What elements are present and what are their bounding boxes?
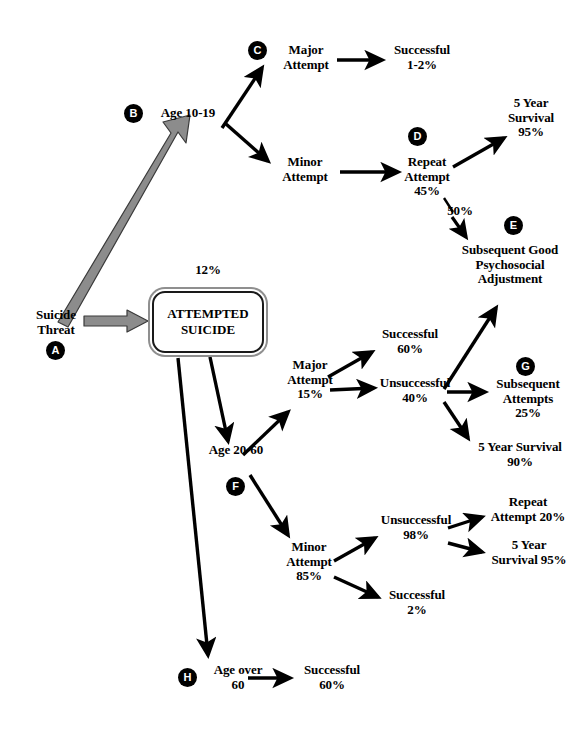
- node-g-survival-label: 5 Year Survival 90%: [465, 440, 575, 469]
- node-f-major-successful-label: Successful 60%: [368, 327, 452, 356]
- node-h-successful-label: Successful 60%: [290, 663, 374, 692]
- node-f-label: Age 20-60: [196, 443, 276, 458]
- node-d-survival-label: 5 Year Survival 95%: [492, 96, 570, 140]
- edge-unsucc40-to-survival90: [444, 402, 468, 438]
- node-badge-g: G: [516, 357, 535, 376]
- node-c-successful-label: Successful 1-2%: [380, 43, 464, 72]
- node-g-label: Subsequent Attempts 25%: [487, 377, 569, 421]
- node-f-major-unsuccessful-label: Unsuccessful 40%: [370, 376, 460, 405]
- attempted-suicide-label: ATTEMPTED SUICIDE: [167, 306, 248, 337]
- node-badge-h: H: [178, 668, 197, 687]
- edge-b-to-major: [222, 68, 262, 128]
- node-b-minor-label: Minor Attempt: [272, 155, 338, 184]
- edge-f-to-minor: [250, 475, 288, 535]
- edge-unsucc98-to-survival95: [448, 543, 482, 552]
- node-f-minor-repeat-label: Repeat Attempt 20%: [478, 495, 578, 524]
- edge-repeat-to-survival95: [453, 138, 504, 167]
- node-f-minor-label: Minor Attempt 85%: [276, 540, 342, 584]
- node-f-major-label: Major Attempt 15%: [278, 358, 342, 402]
- node-f-minor-unsuccessful-label: Unsuccessful 98%: [371, 513, 461, 542]
- attempted-suicide-rate: 12%: [170, 263, 246, 278]
- node-f-minor-successful-label: Successful 2%: [375, 588, 459, 617]
- edge-box-to-f: [210, 357, 228, 441]
- node-badge-e: E: [504, 216, 523, 235]
- node-e-label: Subsequent Good Psychosocial Adjustment: [444, 243, 576, 287]
- edge-repeat-to-e: [452, 217, 466, 237]
- edge-box-to-h: [178, 358, 208, 655]
- node-d-label: Repeat Attempt 45%: [396, 155, 458, 199]
- edge-label-50-percent: 50%: [442, 204, 478, 219]
- node-c-label: Major Attempt: [274, 43, 338, 72]
- attempted-suicide-box: ATTEMPTED SUICIDE: [152, 291, 264, 353]
- node-f-minor-survival-label: 5 Year Survival 95%: [480, 538, 578, 567]
- node-badge-f: F: [226, 477, 245, 496]
- node-badge-c: C: [248, 41, 267, 60]
- node-a-label: Suicide Threat: [16, 308, 96, 337]
- edge-b-to-minor: [226, 124, 268, 161]
- node-b-label: Age 10-19: [150, 106, 226, 121]
- node-badge-b: B: [124, 104, 143, 123]
- node-badge-a: A: [46, 341, 65, 360]
- node-h-label: Age over 60: [204, 663, 272, 692]
- flowchart-canvas: Suicide Threat A 12% ATTEMPTED SUICIDE B…: [0, 0, 582, 739]
- node-badge-d: D: [408, 127, 427, 146]
